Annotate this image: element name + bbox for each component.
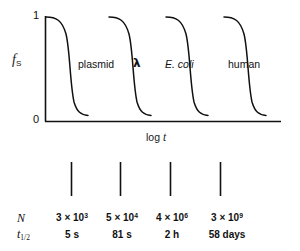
cell-N-human: 3 × 109 <box>196 212 258 223</box>
cell-N-human-exponent: 9 <box>239 212 243 219</box>
x-axis-label-var: t <box>160 131 166 143</box>
cell-thalf-human: 58 days <box>196 229 258 240</box>
cell-N-e-coli: 4 × 106 <box>146 212 198 223</box>
curve-label-lambda: λ <box>133 57 141 69</box>
row-label-t-half: t1/2 <box>17 227 30 242</box>
cell-N-lambda-exponent: 4 <box>134 212 138 219</box>
y-tick-label-0: 0 <box>33 114 39 125</box>
row-label-N: N <box>17 211 25 226</box>
cell-N-lambda: 5 × 104 <box>96 212 148 223</box>
figure-survival-curves: 1 0 fS log t plasmid λ E. coli human N t… <box>0 0 300 251</box>
cell-N-plasmid-exponent: 3 <box>84 212 88 219</box>
curve-label-e-coli: E. coli <box>165 59 194 70</box>
y-axis-label: fS <box>12 52 21 68</box>
curve-label-human: human <box>228 59 260 70</box>
cell-N-e-coli-mantissa: 4 × 10 <box>156 212 184 223</box>
y-axis-label-subscript: S <box>16 59 21 68</box>
cell-N-lambda-mantissa: 5 × 10 <box>106 212 134 223</box>
x-axis-label: log t <box>146 131 166 143</box>
cell-N-e-coli-exponent: 6 <box>184 212 188 219</box>
cell-thalf-plasmid: 5 s <box>46 229 98 240</box>
row-label-t-subscript: 1/2 <box>20 233 30 242</box>
y-tick-label-1: 1 <box>33 10 39 21</box>
cell-N-human-mantissa: 3 × 10 <box>211 212 239 223</box>
curve-lambda <box>109 17 151 116</box>
curve-label-plasmid: plasmid <box>78 59 114 70</box>
cell-thalf-e-coli: 2 h <box>146 229 198 240</box>
x-axis-label-main: log <box>146 131 160 143</box>
cell-N-plasmid: 3 × 103 <box>46 212 98 223</box>
row-label-N-text: N <box>17 211 25 225</box>
cell-thalf-lambda: 81 s <box>96 229 148 240</box>
cell-N-plasmid-mantissa: 3 × 10 <box>56 212 84 223</box>
